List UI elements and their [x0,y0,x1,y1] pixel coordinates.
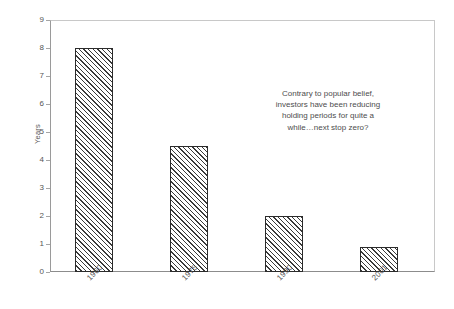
y-tick-7: 7 [0,70,50,82]
y-tick-2: 2 [0,210,50,222]
y-tick-9: 9 [0,14,50,26]
annotation-line-1: Contrary to popular belief, [262,88,394,99]
y-tick-label-6: 6 [10,98,44,110]
y-tick-label-2: 2 [10,210,44,222]
y-tick-4: 4 [0,154,50,166]
y-tick-label-3: 3 [10,182,44,194]
y-tick-3: 3 [0,182,50,194]
y-tick-label-7: 7 [10,70,44,82]
bar-chart: Years 0 1 2 3 4 5 6 7 8 9 [0,0,454,309]
annotation-line-2: investors have been reducing [262,99,394,110]
y-tick-label-1: 1 [10,238,44,250]
chart-annotation: Contrary to popular belief, investors ha… [262,88,394,133]
y-tick-label-8: 8 [10,42,44,54]
annotation-line-4: while…next stop zero? [262,122,394,133]
y-tick-5: 5 [0,126,50,138]
y-tick-label-9: 9 [10,14,44,26]
bar-1975 [170,146,208,272]
y-tick-label-4: 4 [10,154,44,166]
y-tick-label-0: 0 [10,266,44,278]
y-tick-0: 0 [0,266,50,278]
y-tick-label-5: 5 [10,126,44,138]
y-tick-8: 8 [0,42,50,54]
y-tick-6: 6 [0,98,50,110]
y-tick-1: 1 [0,238,50,250]
bar-1960 [75,48,113,272]
annotation-line-3: holding periods for quite a [262,110,394,121]
bar-1990 [265,216,303,272]
